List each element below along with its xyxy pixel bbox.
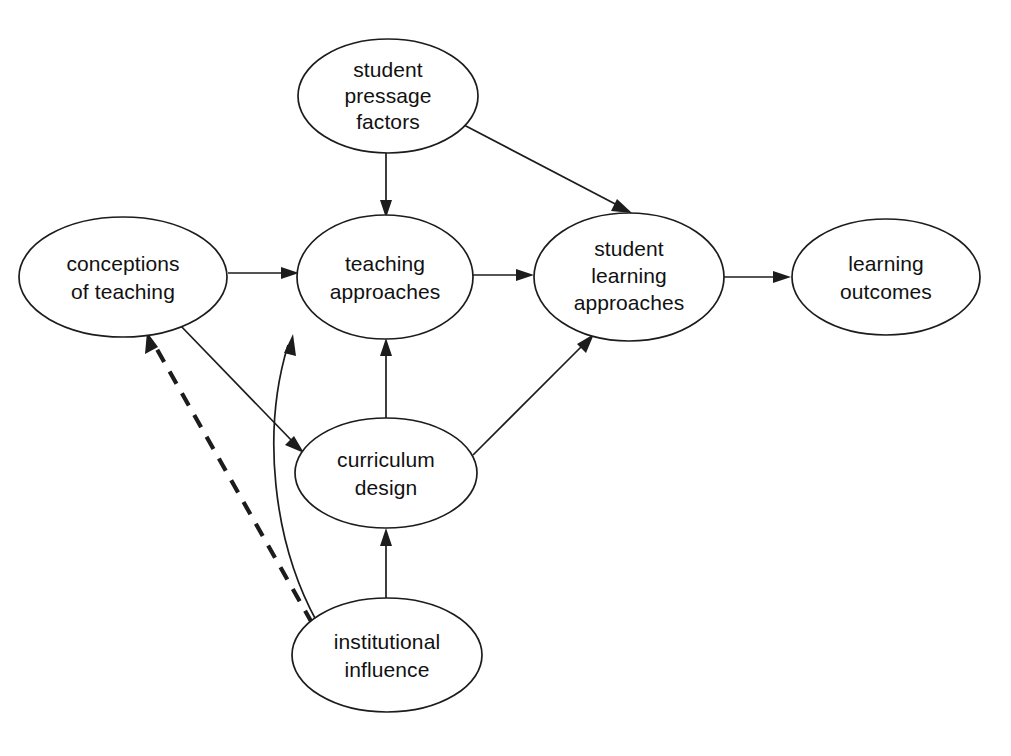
node-student-pressage-factors[interactable]: student pressage factors (298, 39, 478, 153)
edge-conceptions-to-curriculum-design (178, 323, 304, 453)
node-label-line: teaching (345, 252, 425, 275)
node-label-line: pressage (344, 84, 431, 107)
node-label-line: learning (591, 264, 667, 287)
node-label-line: design (355, 476, 417, 499)
edge-institutional-to-curriculum-design (380, 528, 392, 598)
edge-student-learning-to-outcomes (724, 271, 791, 283)
node-label-line: influence (345, 658, 430, 681)
node-label-line: institutional (334, 630, 440, 653)
edge-teaching-approaches-to-student-learning (473, 269, 534, 281)
node-label-line: approaches (330, 280, 441, 303)
diagram-canvas: student pressage factors conceptions of … (0, 0, 1011, 756)
node-label-line: factors (356, 110, 420, 133)
edge-curriculum-design-to-teaching-approaches (380, 338, 392, 418)
node-conceptions-of-teaching[interactable]: conceptions of teaching (19, 217, 227, 337)
edge-conceptions-to-teaching-approaches (228, 267, 299, 279)
node-learning-outcomes[interactable]: learning outcomes (792, 219, 980, 335)
node-label-line: curriculum (337, 448, 435, 471)
node-label-line: learning (848, 252, 924, 275)
flow-diagram: student pressage factors conceptions of … (0, 0, 1011, 756)
node-student-learning-approaches[interactable]: student learning approaches (534, 213, 724, 341)
edge-pressage-to-teaching-approaches (380, 153, 392, 218)
node-label-line: student (353, 58, 423, 81)
node-curriculum-design[interactable]: curriculum design (295, 418, 477, 528)
node-label-line: of teaching (71, 280, 175, 303)
node-institutional-influence[interactable]: institutional influence (292, 598, 482, 712)
node-teaching-approaches[interactable]: teaching approaches (297, 215, 473, 339)
edge-curriculum-design-to-student-learning (473, 334, 594, 455)
edge-pressage-to-student-learning (464, 125, 632, 213)
node-label-line: conceptions (66, 252, 179, 275)
node-label-line: student (594, 237, 664, 260)
node-label-line: outcomes (840, 280, 932, 303)
node-label-line: approaches (574, 291, 685, 314)
